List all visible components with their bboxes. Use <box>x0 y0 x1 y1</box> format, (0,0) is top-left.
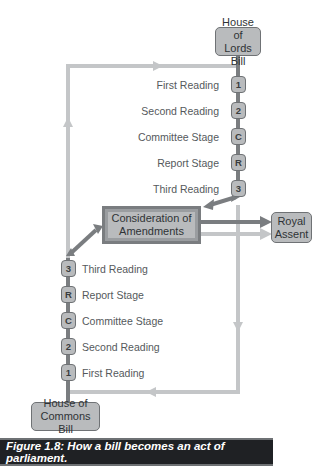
consideration-of-amendments-box: Consideration of Amendments <box>102 206 201 244</box>
lords-stage-label: Report Stage <box>157 157 219 169</box>
arrow-left-bottom <box>146 387 156 397</box>
lords-title-line2: Lords Bill <box>216 42 260 68</box>
commons-title-line2: Commons Bill <box>32 410 99 436</box>
lords-title-line1: House of <box>216 16 260 42</box>
consideration-line2: Amendments <box>111 225 191 238</box>
commons-stage-badge: C <box>61 312 76 329</box>
lords-stage-label: Third Reading <box>153 183 219 195</box>
commons-stage-label: First Reading <box>82 367 144 379</box>
commons-stage-badge: 3 <box>61 260 76 277</box>
commons-title-line1: House of <box>32 397 99 410</box>
lords-stage-badge: 2 <box>231 102 246 119</box>
lords-stage-badge: R <box>231 154 246 171</box>
consideration-line1: Consideration of <box>111 212 191 225</box>
royal-assent-line1: Royal <box>275 215 309 228</box>
commons-stage-label: Report Stage <box>82 289 144 301</box>
commons-stage-badge: R <box>61 286 76 303</box>
commons-stage-label: Third Reading <box>82 263 148 275</box>
commons-stage-label: Second Reading <box>82 341 160 353</box>
house-of-lords-bill-box: House of Lords Bill <box>215 27 261 56</box>
lords-stage-label: Committee Stage <box>138 131 219 143</box>
house-of-commons-bill-box: House of Commons Bill <box>31 402 100 431</box>
figure-caption: Figure 1.8: How a bill becomes an act of… <box>0 438 273 466</box>
commons-stage-badge: 1 <box>61 364 76 381</box>
royal-assent-box: Royal Assent <box>271 212 312 243</box>
lords-stage-label: First Reading <box>157 79 219 91</box>
arrow-down-right <box>233 322 243 332</box>
lords-stage-badge: C <box>231 128 246 145</box>
arrow-up-left <box>63 117 73 127</box>
lords-stage-label: Second Reading <box>141 105 219 117</box>
lords-stage-badge: 1 <box>231 76 246 93</box>
commons-stage-label: Committee Stage <box>82 315 163 327</box>
arrow-to-consideration-from-lords <box>203 199 214 210</box>
lords-stage-badge: 3 <box>231 180 246 197</box>
arrow-right-top <box>153 61 163 71</box>
royal-assent-line2: Assent <box>275 228 309 241</box>
commons-stage-badge: 2 <box>61 338 76 355</box>
